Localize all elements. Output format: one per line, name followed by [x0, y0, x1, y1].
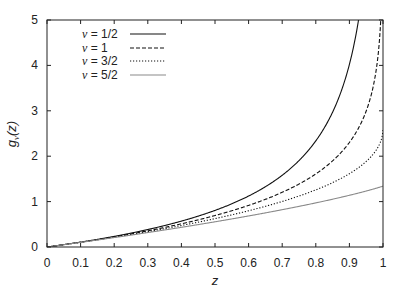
x-tick-label: 0.7 [274, 256, 291, 270]
legend-item: ν = 1/2 [82, 27, 166, 41]
legend-item: ν = 3/2 [82, 54, 166, 68]
legend-label: ν = 1 [82, 41, 108, 55]
series-line-2 [47, 130, 383, 247]
y-tick-label: 0 [31, 240, 38, 254]
y-tick-label: 2 [31, 149, 38, 163]
legend-label: ν = 1/2 [82, 27, 118, 41]
legend-value: = 1/2 [87, 27, 118, 41]
legend-item: ν = 5/2 [82, 68, 166, 82]
x-axis-label: z [211, 273, 219, 288]
x-tick-label: 0 [44, 256, 51, 270]
series-line-3 [47, 186, 383, 247]
chart: 00.10.20.30.40.50.60.70.80.91 012345 z g… [0, 0, 400, 300]
legend-value: = 3/2 [87, 54, 118, 68]
legend-value: = 5/2 [87, 68, 118, 82]
y-tick-label: 4 [31, 58, 38, 72]
legend-label: ν = 3/2 [82, 54, 118, 68]
y-tick-label: 3 [31, 104, 38, 118]
x-tick-label: 0.6 [240, 256, 257, 270]
x-tick-label: 0.3 [139, 256, 156, 270]
y-axis-label: gν(z) [4, 121, 21, 147]
x-tick-labels: 00.10.20.30.40.50.60.70.80.91 [44, 256, 387, 270]
x-tick-label: 0.5 [207, 256, 224, 270]
legend-value: = 1 [87, 41, 108, 55]
y-tick-label: 1 [31, 195, 38, 209]
y-tick-labels: 012345 [31, 13, 38, 254]
legend-label: ν = 5/2 [82, 68, 118, 82]
x-tick-label: 0.8 [307, 256, 324, 270]
x-tick-label: 1 [380, 256, 387, 270]
y-tick-label: 5 [31, 13, 38, 27]
x-tick-label: 0.2 [106, 256, 123, 270]
x-tick-label: 0.9 [341, 256, 358, 270]
svg-text:gν(z): gν(z) [4, 121, 21, 147]
x-tick-label: 0.1 [72, 256, 89, 270]
legend-item: ν = 1 [82, 41, 166, 55]
y-axis-label-arg: (z) [4, 121, 19, 136]
legend: ν = 1/2ν = 1ν = 3/2ν = 5/2 [82, 27, 166, 82]
x-tick-label: 0.4 [173, 256, 190, 270]
